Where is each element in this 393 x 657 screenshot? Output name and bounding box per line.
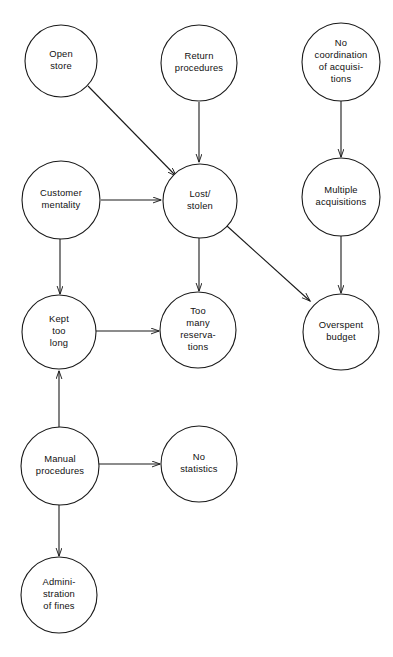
nodes-layer: OpenstoreReturnproceduresNocoordinationo… [21, 23, 380, 633]
node-label-administration-of-fines: Admini-strationof fines [43, 576, 76, 611]
node-label-customer-mentality: Customermentality [40, 187, 82, 210]
node-no-statistics[interactable]: Nostatistics [161, 426, 237, 502]
node-overspent-budget[interactable]: Overspentbudget [303, 294, 379, 370]
node-customer-mentality[interactable]: Customermentality [22, 161, 100, 239]
diagram-canvas: OpenstoreReturnproceduresNocoordinationo… [0, 0, 393, 657]
node-manual-procedures[interactable]: Manualprocedures [21, 427, 99, 505]
node-label-lost-stolen: Lost/stolen [187, 188, 213, 211]
node-lost-stolen[interactable]: Lost/stolen [163, 164, 237, 238]
node-open-store[interactable]: Openstore [25, 25, 97, 97]
edge-lost-stolen-to-overspent-budget [227, 226, 310, 301]
node-label-open-store: Openstore [49, 48, 73, 71]
node-administration-of-fines[interactable]: Admini-strationof fines [21, 557, 97, 633]
node-multiple-acquisitions[interactable]: Multipleacquisitions [302, 158, 380, 236]
node-kept-too-long[interactable]: Kepttoolong [22, 295, 96, 369]
node-return-procedures[interactable]: Returnprocedures [161, 25, 237, 101]
node-no-coordination-of-acquisitions[interactable]: Nocoordinationof acquisi-tions [302, 23, 380, 101]
edge-open-store-to-lost-stolen [88, 86, 176, 176]
node-too-many-reservations[interactable]: Toomanyreserva-tions [160, 292, 236, 368]
causal-diagram: OpenstoreReturnproceduresNocoordinationo… [0, 0, 393, 657]
